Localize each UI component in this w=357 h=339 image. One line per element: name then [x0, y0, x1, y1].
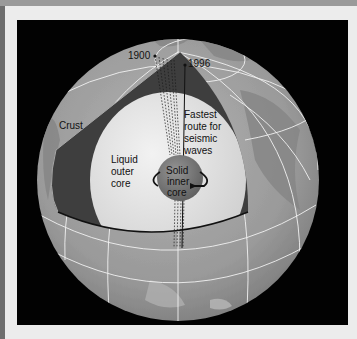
label-crust: Crust — [59, 120, 83, 131]
label-route-3: seismic — [184, 133, 217, 144]
earth-cutaway-svg: 1900 1996 Crust Liquid outer core Solid … — [17, 20, 348, 325]
label-route-1: Fastest — [184, 109, 217, 120]
label-inner-core-2: inner — [167, 176, 190, 187]
label-1996: 1996 — [188, 58, 211, 69]
label-inner-core-3: core — [167, 187, 187, 198]
label-outer-core-2: outer — [111, 166, 134, 177]
marker-1900 — [153, 54, 156, 57]
label-1900: 1900 — [128, 50, 151, 61]
earth-diagram: 1900 1996 Crust Liquid outer core Solid … — [17, 20, 348, 325]
label-outer-core-1: Liquid — [111, 154, 138, 165]
marker-1996 — [183, 63, 186, 66]
label-outer-core-3: core — [111, 178, 131, 189]
label-route-2: route for — [184, 121, 222, 132]
label-inner-core-1: Solid — [166, 165, 188, 176]
label-route-4: waves — [183, 145, 212, 156]
